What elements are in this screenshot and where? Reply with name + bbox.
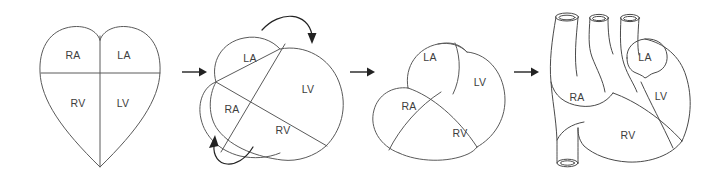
rotation-arrow-bottom (209, 135, 253, 164)
ra-oval-outline (373, 88, 408, 153)
label-panel2-lv: LV (302, 83, 315, 95)
vessel-right-right-outline (638, 18, 639, 55)
rotation-arrow-head-bottom-icon (209, 135, 219, 148)
lv-body-outline (467, 52, 505, 147)
label-panel4-lv: LV (655, 90, 668, 102)
arrow-panel2-to-panel3 (350, 68, 375, 77)
label-panel3-ra: RA (401, 100, 416, 112)
vessel-middle-right-outline (608, 18, 613, 54)
label-panel3-la: LA (423, 51, 436, 63)
label-panel1-rv: RV (71, 97, 86, 109)
label-panel1-ra: RA (65, 49, 80, 61)
ivc-opening-inner-icon (561, 161, 575, 165)
label-panel2-rv: RV (276, 124, 291, 136)
vessel-right-left-outline (620, 18, 637, 92)
heart-orientation-figure: RA LA RV LV LA LV RA RV (0, 0, 722, 177)
vessel-middle-opening-inner-icon (593, 16, 606, 20)
label-panel1-lv: LV (117, 97, 130, 109)
ra-lower-wall-outline (557, 122, 584, 140)
label-panel1-la: LA (117, 49, 130, 61)
panel-1-schematic-heart: RA LA RV LV (40, 27, 160, 168)
rotation-arc-top (262, 16, 312, 35)
arrow-head-icon (199, 68, 207, 77)
label-panel2-la: LA (243, 52, 256, 64)
vessel-middle-left-outline (589, 18, 605, 92)
rotation-arc-bottom (214, 145, 253, 164)
vessel-left-inner-outline (575, 18, 578, 76)
vessel-right-opening-inner-icon (624, 16, 637, 20)
rv-lower-outline (399, 147, 477, 160)
rotation-arrow-top (262, 16, 317, 44)
arrow-panel3-to-panel4 (514, 68, 539, 77)
arrow-head-icon (531, 68, 539, 77)
panel-2-rotating-heart: LA LV RA RV (200, 16, 343, 164)
label-panel2-ra: RA (224, 103, 239, 115)
vessel-left-opening-inner-icon (559, 15, 575, 20)
label-panel4-rv: RV (621, 129, 636, 141)
panel-3-rotated-heart: LA LV RA RV (373, 43, 505, 160)
label-panel4-ra: RA (569, 91, 584, 103)
arrow-head-icon (367, 68, 375, 77)
lv-outline (645, 39, 690, 141)
label-panel3-lv: LV (474, 76, 487, 88)
label-panel4-la: LA (638, 51, 651, 63)
panel-4-anatomical-heart: LA RA LV RV (550, 13, 690, 167)
arrow-panel1-to-panel2 (182, 68, 207, 77)
label-panel3-rv: RV (453, 127, 468, 139)
figure-canvas: RA LA RV LV LA LV RA RV (0, 0, 722, 177)
la-lv-divide-curve (453, 43, 459, 94)
rotation-arrow-head-top-icon (308, 33, 317, 44)
